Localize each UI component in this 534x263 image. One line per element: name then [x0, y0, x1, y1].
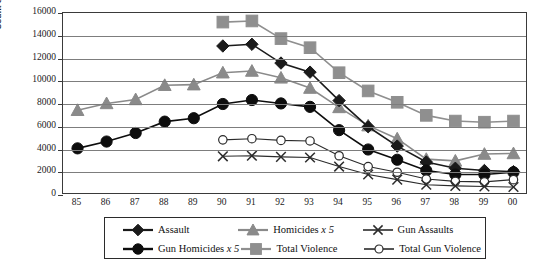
legend-item[interactable]: Total Violence: [239, 242, 362, 256]
series-line: [78, 100, 514, 175]
data-point: [246, 15, 258, 27]
data-point: [392, 154, 403, 165]
legend-label: Gun Assaults: [395, 224, 454, 235]
y-tick-mark: [58, 172, 63, 173]
plot-area: [62, 12, 527, 194]
x-tick-label: 91: [236, 197, 266, 207]
legend-row: AssaultHomicides x 5Gun Assaults: [105, 220, 485, 239]
data-point: [129, 93, 142, 105]
data-point: [72, 143, 83, 154]
line-circle-open-black-icon: [362, 242, 396, 256]
y-tick-mark: [58, 81, 63, 82]
gridline: [63, 81, 526, 82]
y-tick-label: 14000: [4, 30, 56, 40]
x-tick-label: 99: [468, 197, 498, 207]
data-point: [334, 162, 344, 172]
y-tick-mark: [58, 104, 63, 105]
y-tick-label: 12000: [4, 53, 56, 63]
data-point: [246, 38, 258, 50]
line-circle-filled-black-icon: [121, 242, 155, 256]
y-tick-mark: [58, 195, 63, 196]
data-point: [335, 152, 343, 160]
x-tick-label: 98: [439, 197, 469, 207]
y-tick-label: 10000: [4, 75, 56, 85]
y-tick-mark: [58, 150, 63, 151]
chart-legend: AssaultHomicides x 5Gun AssaultsGun Homi…: [104, 217, 486, 259]
data-point: [362, 85, 374, 97]
legend-item[interactable]: Total Gun Violence: [362, 242, 485, 256]
legend-label: Gun Homicides x 5: [155, 243, 239, 254]
x-tick-label: 87: [120, 197, 150, 207]
y-tick-label: 6000: [4, 121, 56, 131]
x-tick-label: 88: [149, 197, 179, 207]
data-point: [306, 137, 314, 145]
data-point: [364, 162, 372, 170]
data-point: [451, 177, 459, 185]
y-tick-label: 8000: [4, 98, 56, 108]
legend-label: Total Gun Violence: [396, 243, 481, 254]
legend-item[interactable]: Gun Assaults: [361, 223, 485, 237]
data-point: [333, 67, 345, 79]
legend-row: Gun Homicides x 5Total ViolenceTotal Gun…: [105, 239, 485, 258]
data-point: [219, 136, 227, 144]
x-tick-label: 96: [381, 197, 411, 207]
data-point: [509, 175, 517, 183]
legend-item[interactable]: Assault: [105, 223, 236, 237]
data-point: [159, 116, 170, 127]
x-tick-label: 92: [265, 197, 295, 207]
line-diamond-black-icon: [121, 223, 155, 237]
data-point: [304, 101, 315, 112]
y-tick-label: 16000: [4, 7, 56, 17]
x-tick-label: 00: [497, 197, 527, 207]
data-point: [217, 16, 229, 28]
y-tick-mark: [58, 36, 63, 37]
line-square-gray-icon: [239, 242, 273, 256]
x-tick-label: 90: [207, 197, 237, 207]
data-point: [275, 33, 287, 45]
data-point: [450, 115, 462, 127]
data-point: [508, 115, 520, 127]
series-total-violence: [217, 15, 519, 128]
x-tick-label: 95: [352, 197, 382, 207]
legend-item[interactable]: Gun Homicides x 5: [105, 242, 239, 256]
gridline: [63, 104, 526, 105]
y-tick-label: 2000: [4, 166, 56, 176]
y-tick-mark: [58, 13, 63, 14]
x-tick-label: 94: [323, 197, 353, 207]
series-total-gun-violence: [219, 134, 518, 186]
x-tick-label: 86: [91, 197, 121, 207]
gridline: [63, 36, 526, 37]
x-tick-label: 85: [62, 197, 92, 207]
x-tick-label: 89: [178, 197, 208, 207]
legend-label: Total Violence: [273, 243, 337, 254]
data-point: [217, 40, 229, 52]
data-point: [188, 113, 199, 124]
legend-label: Homicides x 5: [270, 224, 334, 235]
data-point: [480, 178, 488, 186]
legend-item[interactable]: Homicides x 5: [236, 223, 360, 237]
x-tick-label: 97: [410, 197, 440, 207]
line-triangle-gray-icon: [236, 223, 270, 237]
data-point: [246, 65, 259, 77]
data-point: [130, 127, 141, 138]
y-tick-label: 0: [4, 189, 56, 199]
y-tick-mark: [58, 127, 63, 128]
series-line: [78, 71, 514, 161]
y-axis-tick-labels: 0200040006000800010000120001400016000: [0, 0, 56, 194]
data-point: [420, 110, 432, 122]
line-cross-black-icon: [361, 223, 395, 237]
y-tick-label: 4000: [4, 144, 56, 154]
x-axis-tick-labels: 85868788899091929394959697989900: [62, 197, 527, 213]
data-point: [304, 42, 316, 54]
data-point: [277, 136, 285, 144]
data-point: [101, 136, 112, 147]
legend-label: Assault: [155, 224, 190, 235]
x-tick-label: 93: [294, 197, 324, 207]
gridline: [63, 127, 526, 128]
data-point: [391, 96, 403, 108]
data-point: [304, 82, 317, 94]
gridline: [63, 150, 526, 151]
y-tick-mark: [58, 59, 63, 60]
gridline: [63, 172, 526, 173]
chart-screenshot: Count of Injuries 0200040006000800010000…: [0, 0, 534, 263]
